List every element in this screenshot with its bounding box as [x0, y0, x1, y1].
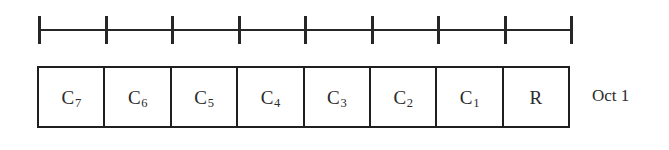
cell: R	[504, 68, 568, 126]
axis-tick	[504, 16, 507, 44]
axis-tick	[371, 16, 374, 44]
axis-tick	[38, 16, 41, 44]
cell: C3	[305, 68, 371, 126]
axis-tick	[570, 16, 573, 44]
cell: C1	[437, 68, 503, 126]
cell-label: C6	[128, 88, 147, 107]
cell-row: C7 C6 C5 C4 C3 C2 C1 R	[37, 66, 570, 128]
cell-label: C4	[261, 88, 280, 107]
cell-label: C3	[327, 88, 346, 107]
timeline-figure: C7 C6 C5 C4 C3 C2 C1 R Oct 1	[0, 0, 669, 150]
axis-tick	[304, 16, 307, 44]
date-annotation: Oct 1	[592, 87, 629, 104]
cell-label: C2	[393, 88, 412, 107]
cell: C7	[39, 68, 105, 126]
cell: C2	[371, 68, 437, 126]
cell: C6	[105, 68, 171, 126]
axis-tick	[437, 16, 440, 44]
cell: C5	[172, 68, 238, 126]
axis-tick	[171, 16, 174, 44]
tick-axis	[39, 16, 571, 44]
cell: C4	[238, 68, 304, 126]
cell-label: C7	[62, 88, 81, 107]
axis-tick	[105, 16, 108, 44]
axis-tick	[238, 16, 241, 44]
cell-label: C1	[460, 88, 479, 107]
cell-label: C5	[194, 88, 213, 107]
cell-label: R	[529, 88, 542, 107]
